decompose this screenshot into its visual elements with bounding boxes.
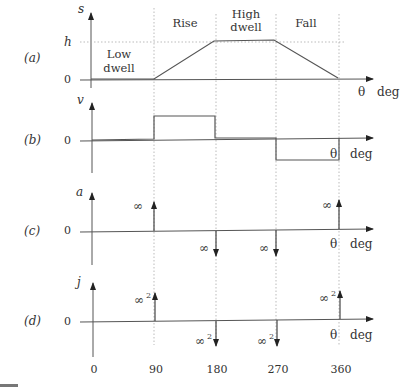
superscript-2: 2 xyxy=(146,291,151,300)
infinity-squared-label: ∞ xyxy=(195,334,205,348)
segment-label-high: dwell xyxy=(230,20,262,34)
infinity-label: ∞ xyxy=(199,241,209,255)
x-axis-symbol: θ xyxy=(330,328,337,342)
infinity-squared-label: ∞ xyxy=(319,291,329,305)
infinity-label: ∞ xyxy=(133,199,143,213)
segment-label-rise: Rise xyxy=(172,16,197,30)
panel-label: (d) xyxy=(24,314,41,328)
x-axis xyxy=(80,229,373,232)
superscript-2: 2 xyxy=(331,289,336,298)
zero-label: 0 xyxy=(64,73,71,86)
guide-lines xyxy=(154,8,339,345)
infinity-squared-label: ∞ xyxy=(134,293,144,307)
panel-a-displacement: (a) s h 0 Low dwell Rise High dwell Fall… xyxy=(24,2,400,99)
panel-label: (b) xyxy=(24,133,41,147)
x-axis-symbol: θ xyxy=(330,147,337,161)
x-tick: 90 xyxy=(149,363,163,376)
zero-label: 0 xyxy=(64,224,71,237)
x-axis-unit: deg xyxy=(350,237,373,251)
x-tick: 270 xyxy=(268,363,289,376)
panel-label: (c) xyxy=(24,224,40,238)
y-axis-label: s xyxy=(78,2,84,16)
segment-label-low: dwell xyxy=(103,61,135,75)
infinity-squared-label: ∞ xyxy=(257,334,267,348)
infinity-label: ∞ xyxy=(259,241,269,255)
x-tick: 0 xyxy=(91,363,98,376)
y-axis-label: a xyxy=(76,185,83,199)
x-tick: 180 xyxy=(207,363,228,376)
panel-d-jerk: (d) j 0 ∞ 2 ∞ 2 ∞ 2 ∞ 2 θ deg xyxy=(24,275,373,357)
svd-diagram: (a) s h 0 Low dwell Rise High dwell Fall… xyxy=(0,0,411,387)
x-axis-unit: deg xyxy=(350,147,373,161)
y-axis-label: v xyxy=(77,93,84,107)
segment-label-high: High xyxy=(232,7,261,21)
infinity-label: ∞ xyxy=(322,198,332,212)
zero-label: 0 xyxy=(64,134,71,147)
velocity-curve xyxy=(92,116,339,160)
panel-b-velocity: (b) v 0 θ deg xyxy=(24,93,373,173)
h-tick-label: h xyxy=(64,35,72,49)
superscript-2: 2 xyxy=(207,332,212,341)
panel-label: (a) xyxy=(24,51,41,65)
zero-label: 0 xyxy=(64,315,71,328)
y-axis-label: j xyxy=(74,275,81,289)
panel-c-acceleration: (c) a 0 ∞ ∞ ∞ ∞ θ deg xyxy=(24,185,373,265)
x-axis-unit: deg xyxy=(377,85,400,99)
segment-label-fall: Fall xyxy=(295,16,317,30)
segment-label-low: Low xyxy=(107,47,132,61)
x-tick: 360 xyxy=(331,363,352,376)
x-axis xyxy=(80,319,373,322)
x-tick-labels: 0 90 180 270 360 xyxy=(91,363,352,376)
superscript-2: 2 xyxy=(269,332,274,341)
x-axis-symbol: θ xyxy=(330,237,337,251)
x-axis-unit: deg xyxy=(350,328,373,342)
x-axis-symbol: θ xyxy=(358,85,365,99)
